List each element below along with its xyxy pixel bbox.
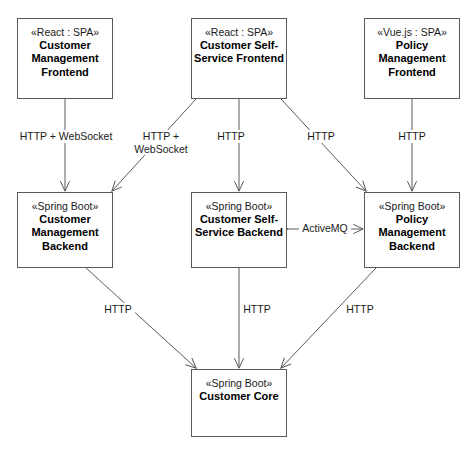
node-title: Customer Management Backend [18,213,112,253]
edge-label-pmb-to-core: HTTP [343,303,377,316]
edge-label-pmf-to-pmb: HTTP [395,130,429,143]
node-stereotype: «React : SPA» [192,26,286,39]
node-stereotype: «Spring Boot» [192,200,286,213]
node-title: Customer Self- Service Backend [192,213,286,239]
edge-cssf-to-pmb [281,99,366,191]
node-policy-management-backend[interactable]: «Spring Boot» Policy Management Backend [364,192,460,268]
edge-label-cssf-to-cssb: HTTP [214,130,248,143]
node-stereotype: «Spring Boot» [192,377,286,390]
edge-label-cmf-to-cmb: HTTP + WebSocket [15,130,117,143]
edge-cmb-to-core [86,268,196,368]
node-title: Customer Management Frontend [18,39,112,79]
edge-label-cssb-to-pmb: ActiveMQ [299,222,351,235]
edge-pmb-to-core [281,268,376,368]
node-stereotype: «Spring Boot» [365,200,459,213]
node-stereotype: «Vue.js : SPA» [365,26,459,39]
node-stereotype: «React : SPA» [18,26,112,39]
node-customer-self-service-backend[interactable]: «Spring Boot» Customer Self- Service Bac… [191,192,287,268]
edge-label-cmb-to-core: HTTP [101,303,135,316]
node-customer-management-frontend[interactable]: «React : SPA» Customer Management Fronte… [17,18,113,99]
node-customer-core[interactable]: «Spring Boot» Customer Core [191,369,287,437]
edge-label-cssb-to-core: HTTP [240,303,274,316]
node-customer-self-service-frontend[interactable]: «React : SPA» Customer Self- Service Fro… [191,18,287,99]
node-title: Customer Core [192,390,286,403]
node-stereotype: «Spring Boot» [18,200,112,213]
node-title: Policy Management Frontend [365,39,459,79]
uml-component-diagram: «React : SPA» Customer Management Fronte… [0,0,472,456]
node-policy-management-frontend[interactable]: «Vue.js : SPA» Policy Management Fronten… [364,18,460,99]
node-customer-management-backend[interactable]: «Spring Boot» Customer Management Backen… [17,192,113,268]
node-title: Customer Self- Service Frontend [192,39,286,65]
edge-label-cssf-to-cmb: HTTP + WebSocket [128,130,194,155]
edge-label-cssf-to-pmb: HTTP [304,130,338,143]
node-title: Policy Management Backend [365,213,459,253]
